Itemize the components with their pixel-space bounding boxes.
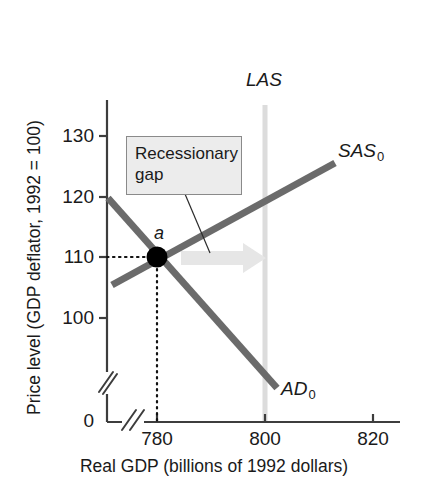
sas-label-subscript: 0 — [377, 149, 384, 164]
x-tick-label-780: 780 — [122, 428, 192, 450]
las-label-text: LAS — [246, 69, 282, 90]
ad-curve — [108, 198, 277, 388]
ad-label-text: AD — [281, 378, 307, 399]
callout-line-2: gap — [135, 164, 233, 185]
y-tick-label-130: 130 — [48, 125, 94, 147]
y-axis-title: Price level (GDP deflator, 1992 = 100) — [24, 120, 45, 415]
y-tick-label-110: 110 — [48, 246, 94, 268]
equilibrium-point-marker — [147, 247, 168, 268]
y-axis-origin-label: 0 — [48, 410, 94, 432]
y-axis-break-icon — [99, 372, 117, 394]
x-axis-break-icon — [122, 410, 144, 430]
las-curve-label: LAS — [246, 69, 282, 91]
recessionary-gap-arrow — [181, 243, 266, 273]
x-tick-label-800: 800 — [230, 428, 300, 450]
x-axis-title: Real GDP (billions of 1992 dollars) — [0, 456, 428, 477]
x-tick-label-820: 820 — [338, 428, 408, 450]
ad-curve-label: AD0 — [281, 378, 315, 400]
sas-label-text: SAS — [338, 140, 376, 161]
x-axis-ticks — [157, 414, 373, 422]
sas-curve-label: SAS0 — [338, 140, 383, 162]
callout-line-1: Recessionary — [135, 143, 233, 164]
y-tick-label-120: 120 — [48, 186, 94, 208]
y-axis-ticks — [99, 136, 107, 318]
recessionary-gap-callout: Recessionary gap — [126, 136, 242, 195]
ad-label-subscript: 0 — [308, 387, 315, 402]
ad-as-figure: Recessionary gap 130 120 110 100 0 780 8… — [0, 0, 428, 495]
y-tick-label-100: 100 — [48, 307, 94, 329]
equilibrium-point-label: a — [154, 223, 164, 244]
